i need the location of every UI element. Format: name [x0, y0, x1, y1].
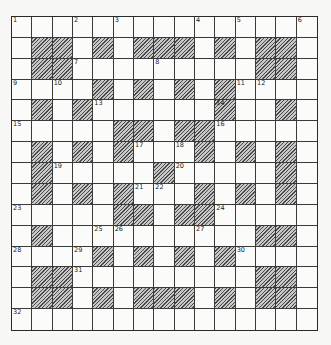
- grid-cell[interactable]: 16: [215, 121, 235, 142]
- grid-cell[interactable]: [154, 247, 174, 268]
- grid-cell[interactable]: [256, 121, 276, 142]
- grid-cell[interactable]: 20: [175, 163, 195, 184]
- grid-cell[interactable]: [32, 247, 52, 268]
- grid-cell[interactable]: [297, 59, 317, 80]
- grid-cell[interactable]: [256, 163, 276, 184]
- grid-cell[interactable]: [93, 205, 113, 226]
- grid-cell[interactable]: [236, 205, 256, 226]
- grid-cell[interactable]: [53, 184, 73, 205]
- grid-cell[interactable]: [276, 247, 296, 268]
- grid-cell[interactable]: [32, 121, 52, 142]
- grid-cell[interactable]: [73, 205, 93, 226]
- grid-cell[interactable]: [93, 142, 113, 163]
- grid-cell[interactable]: [236, 267, 256, 288]
- grid-cell[interactable]: 7: [73, 59, 93, 80]
- grid-cell[interactable]: [236, 121, 256, 142]
- grid-cell[interactable]: [175, 100, 195, 121]
- grid-cell[interactable]: [73, 288, 93, 309]
- grid-cell[interactable]: [93, 17, 113, 38]
- grid-cell[interactable]: 27: [195, 226, 215, 247]
- grid-cell[interactable]: [93, 309, 113, 330]
- grid-cell[interactable]: 23: [12, 205, 32, 226]
- grid-cell[interactable]: [297, 100, 317, 121]
- grid-cell[interactable]: [114, 100, 134, 121]
- grid-cell[interactable]: [134, 267, 154, 288]
- grid-cell[interactable]: [12, 100, 32, 121]
- grid-cell[interactable]: [12, 267, 32, 288]
- grid-cell[interactable]: [236, 163, 256, 184]
- grid-cell[interactable]: 26: [114, 226, 134, 247]
- grid-cell[interactable]: [195, 267, 215, 288]
- grid-cell[interactable]: [93, 59, 113, 80]
- grid-cell[interactable]: [154, 309, 174, 330]
- grid-cell[interactable]: [236, 309, 256, 330]
- grid-cell[interactable]: [53, 205, 73, 226]
- grid-cell[interactable]: 6: [297, 17, 317, 38]
- grid-cell[interactable]: [236, 59, 256, 80]
- grid-cell[interactable]: [236, 226, 256, 247]
- grid-cell[interactable]: 32: [12, 309, 32, 330]
- grid-cell[interactable]: [297, 184, 317, 205]
- grid-cell[interactable]: 28: [12, 247, 32, 268]
- grid-cell[interactable]: 29: [73, 247, 93, 268]
- grid-cell[interactable]: [114, 247, 134, 268]
- grid-cell[interactable]: [32, 80, 52, 101]
- grid-cell[interactable]: [297, 38, 317, 59]
- grid-cell[interactable]: 25: [93, 226, 113, 247]
- grid-cell[interactable]: [175, 59, 195, 80]
- grid-cell[interactable]: [114, 267, 134, 288]
- grid-cell[interactable]: [12, 163, 32, 184]
- grid-cell[interactable]: [12, 288, 32, 309]
- grid-cell[interactable]: [12, 142, 32, 163]
- grid-cell[interactable]: [195, 247, 215, 268]
- grid-cell[interactable]: [154, 17, 174, 38]
- grid-cell[interactable]: [93, 267, 113, 288]
- grid-cell[interactable]: [276, 17, 296, 38]
- grid-cell[interactable]: [114, 309, 134, 330]
- grid-cell[interactable]: [175, 309, 195, 330]
- grid-cell[interactable]: [297, 121, 317, 142]
- grid-cell[interactable]: [276, 121, 296, 142]
- grid-cell[interactable]: [73, 163, 93, 184]
- grid-cell[interactable]: [32, 309, 52, 330]
- grid-cell[interactable]: 30: [236, 247, 256, 268]
- grid-cell[interactable]: [195, 38, 215, 59]
- grid-cell[interactable]: [73, 226, 93, 247]
- grid-cell[interactable]: [195, 288, 215, 309]
- grid-cell[interactable]: [236, 38, 256, 59]
- grid-cell[interactable]: [175, 267, 195, 288]
- grid-cell[interactable]: [53, 226, 73, 247]
- grid-cell[interactable]: [114, 163, 134, 184]
- grid-cell[interactable]: [215, 309, 235, 330]
- grid-cell[interactable]: [175, 184, 195, 205]
- grid-cell[interactable]: [73, 121, 93, 142]
- grid-cell[interactable]: [53, 121, 73, 142]
- grid-cell[interactable]: 4: [195, 17, 215, 38]
- grid-cell[interactable]: [215, 184, 235, 205]
- grid-cell[interactable]: [53, 17, 73, 38]
- grid-cell[interactable]: [53, 142, 73, 163]
- grid-cell[interactable]: [154, 100, 174, 121]
- grid-cell[interactable]: 24: [215, 205, 235, 226]
- grid-cell[interactable]: 10: [53, 80, 73, 101]
- grid-cell[interactable]: [93, 121, 113, 142]
- grid-cell[interactable]: [175, 226, 195, 247]
- grid-cell[interactable]: [276, 80, 296, 101]
- grid-cell[interactable]: 19: [53, 163, 73, 184]
- grid-cell[interactable]: [73, 80, 93, 101]
- grid-cell[interactable]: [195, 163, 215, 184]
- grid-cell[interactable]: 9: [12, 80, 32, 101]
- grid-cell[interactable]: [134, 59, 154, 80]
- grid-cell[interactable]: [297, 205, 317, 226]
- grid-cell[interactable]: [134, 309, 154, 330]
- grid-cell[interactable]: [236, 288, 256, 309]
- grid-cell[interactable]: [73, 38, 93, 59]
- grid-cell[interactable]: [53, 309, 73, 330]
- grid-cell[interactable]: [276, 309, 296, 330]
- grid-cell[interactable]: [154, 205, 174, 226]
- grid-cell[interactable]: [114, 80, 134, 101]
- grid-cell[interactable]: 11: [236, 80, 256, 101]
- grid-cell[interactable]: [32, 205, 52, 226]
- grid-cell[interactable]: [215, 267, 235, 288]
- grid-cell[interactable]: [256, 100, 276, 121]
